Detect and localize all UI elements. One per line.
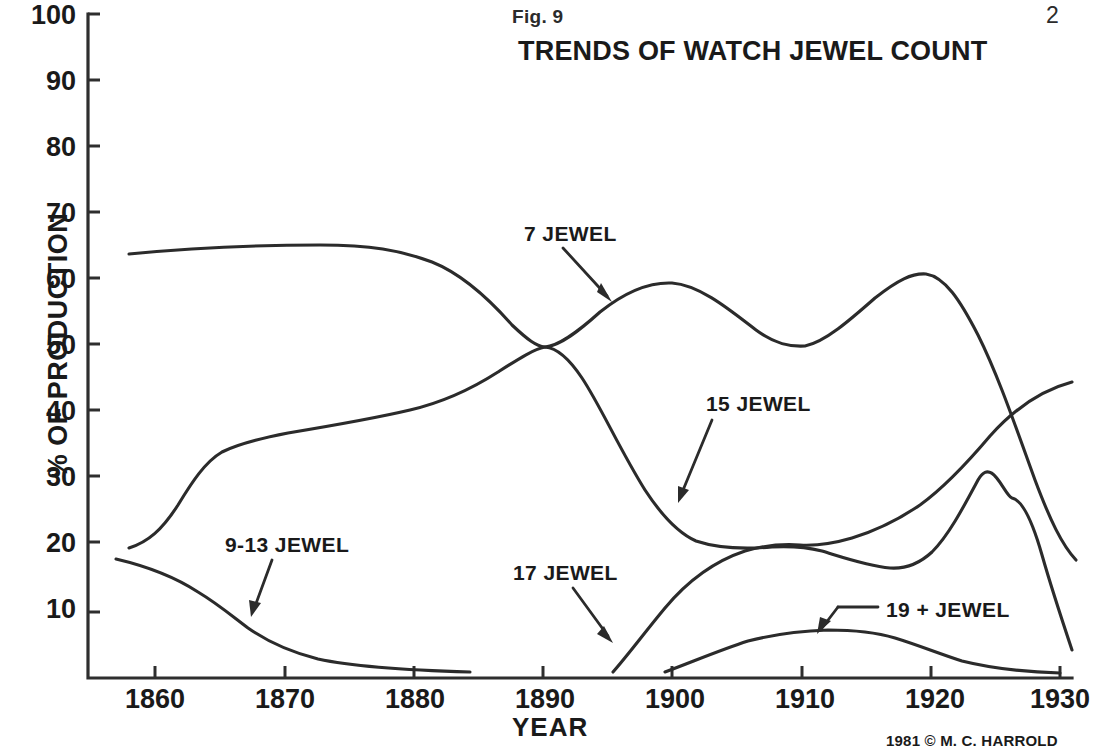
annotation-leader-7-jewel	[563, 248, 612, 302]
x-axis-ticks	[155, 666, 1060, 678]
series-curve-17-jewel	[613, 382, 1072, 672]
plot-area	[0, 0, 1102, 756]
y-axis-ticks	[88, 14, 100, 612]
chart-figure: Fig. 9 2 TRENDS OF WATCH JEWEL COUNT % O…	[0, 0, 1102, 756]
series-curve-9-13-jewel	[116, 559, 470, 672]
annotation-leader-15-jewel	[678, 420, 712, 503]
annotation-leader-17-jewel	[573, 588, 613, 643]
axis-lines	[88, 14, 1072, 678]
series-curve-19-jewel	[665, 630, 1060, 673]
annotation-leader-9-13-jewel	[249, 560, 272, 617]
